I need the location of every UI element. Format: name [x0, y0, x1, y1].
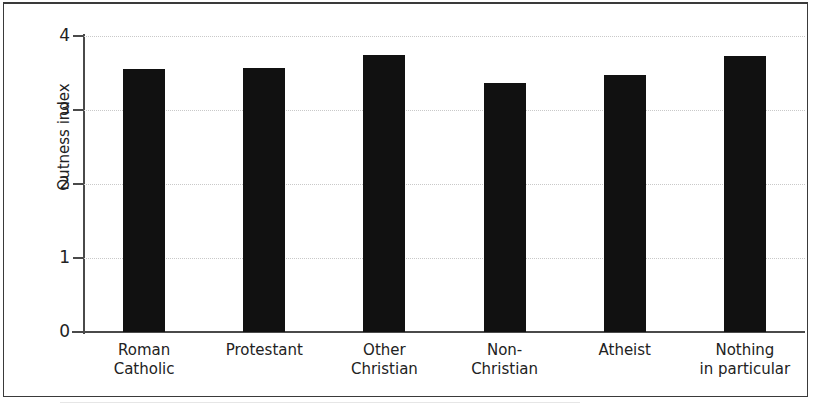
y-tick-mark — [73, 109, 84, 111]
y-axis-title: Outness index — [55, 57, 73, 217]
chart-figure: Outness index 01234 Roman CatholicProtes… — [0, 0, 827, 405]
y-tick-mark — [73, 257, 84, 259]
y-tick-label: 1 — [30, 249, 70, 266]
bar — [484, 83, 526, 332]
gridline — [84, 110, 805, 112]
bar — [604, 75, 646, 332]
y-tick-label: 0 — [30, 323, 70, 340]
scan-artifact — [60, 402, 580, 403]
gridline — [84, 258, 805, 260]
bar — [243, 68, 285, 332]
bar — [363, 55, 405, 333]
y-tick-mark — [73, 331, 84, 333]
y-tick-label: 2 — [30, 175, 70, 192]
y-tick-label: 4 — [30, 27, 70, 44]
plot-area — [84, 36, 805, 332]
y-tick-label: 3 — [30, 101, 70, 118]
y-tick-mark — [73, 183, 84, 185]
x-tick-label: Nothing in particular — [665, 341, 825, 379]
gridline — [84, 36, 805, 38]
y-tick-mark — [73, 35, 84, 37]
bar — [123, 69, 165, 332]
gridline — [84, 184, 805, 186]
bar — [724, 56, 766, 332]
